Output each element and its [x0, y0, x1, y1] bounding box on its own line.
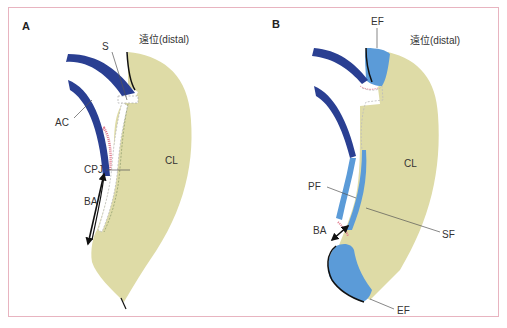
- panel-b-junction-top: [360, 86, 378, 89]
- panel-b-label-pf: PF: [308, 181, 321, 192]
- panel-b-label-ba: BA: [313, 225, 327, 236]
- panel-a-sulcus-box: [118, 96, 138, 103]
- panel-a-connective-tissue: [91, 52, 191, 302]
- panel-b-enamel-upper: [312, 48, 368, 84]
- panel-a-distal-label: 遠位(distal): [139, 33, 189, 45]
- panel-b-label-sf: SF: [442, 229, 455, 240]
- panel-a-label-ba: BA: [84, 196, 98, 207]
- panel-a-letter: A: [22, 20, 30, 32]
- panel-b: B 遠位(distal) EF PF CL SF B: [272, 16, 460, 316]
- panel-a-label-s: S: [102, 41, 109, 52]
- panel-a: A 遠位(distal) S AC CPJ BA CL: [22, 20, 192, 309]
- panel-b-enamel-lower: [314, 86, 356, 158]
- panel-a-label-cpj: CPJ: [84, 164, 103, 175]
- diagram-canvas: A 遠位(distal) S AC CPJ BA CL B 遠位(distal): [0, 0, 507, 328]
- panel-b-label-ef-bottom: EF: [397, 305, 410, 316]
- panel-b-label-ef-top: EF: [371, 16, 384, 27]
- panel-a-label-ac: AC: [55, 117, 69, 128]
- panel-b-distal-label: 遠位(distal): [410, 34, 460, 46]
- panel-b-ef-bottom-leader: [370, 299, 394, 309]
- panel-a-label-cl: CL: [165, 155, 178, 166]
- panel-b-label-cl: CL: [404, 158, 417, 169]
- panel-b-letter: B: [272, 18, 280, 30]
